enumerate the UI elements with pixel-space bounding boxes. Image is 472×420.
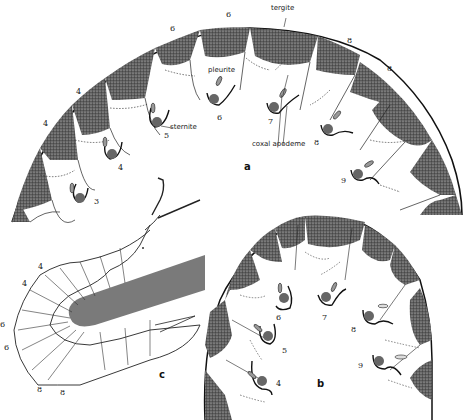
tergite-number: 6 <box>170 25 175 33</box>
label-sternite: sternite <box>170 124 197 131</box>
leg-number: 7 <box>268 118 273 126</box>
leg-number: 5 <box>282 347 287 355</box>
segment-number: 6 <box>0 321 5 329</box>
leg-number: 5 <box>164 132 169 140</box>
segment-number: 8 <box>60 389 65 397</box>
leg-number: 7 <box>322 314 327 322</box>
leg-number: 8 <box>314 139 319 147</box>
tergite-number: 4 <box>76 88 81 96</box>
leg-number: 8 <box>351 326 356 334</box>
segment-number: 4 <box>38 263 43 271</box>
segment-number: 4 <box>22 280 27 288</box>
leg-number: 4 <box>118 164 123 172</box>
leg-number: 9 <box>341 177 346 185</box>
leg-number: 6 <box>276 314 281 322</box>
tergite-number: 8 <box>347 37 352 45</box>
anatomical-figure: tergite pleurite sternite coxal apodeme … <box>0 0 472 420</box>
panel-b-artwork <box>205 216 432 420</box>
panel-a-artwork <box>12 18 462 223</box>
segment-number: 6 <box>4 344 9 352</box>
panel-label-c: c <box>159 370 165 380</box>
panel-label-b: b <box>317 379 324 389</box>
label-coxal-apodeme: coxal apodeme <box>252 141 305 148</box>
figure-artwork <box>0 0 472 420</box>
leg-number: 4 <box>276 380 281 388</box>
panel-c-artwork <box>14 178 205 385</box>
tergite-number: 6 <box>226 11 231 19</box>
leg-number: 3 <box>94 198 99 206</box>
leg-number: 9 <box>358 362 363 370</box>
tergite-number: 8 <box>387 65 392 73</box>
label-pleurite: pleurite <box>208 67 235 74</box>
panel-label-a: a <box>244 162 251 172</box>
label-tergite: tergite <box>271 5 294 12</box>
leg-number: 6 <box>217 114 222 122</box>
tergite-number: 4 <box>43 120 48 128</box>
segment-number: 8 <box>37 386 42 394</box>
